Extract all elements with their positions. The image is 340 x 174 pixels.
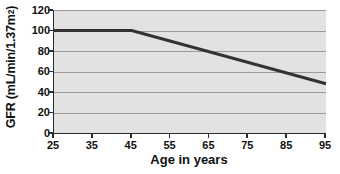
- x-axis-tick-label: 95: [310, 139, 340, 151]
- x-axis-tick-mark: [208, 133, 210, 138]
- y-axis-tick-label: 0: [22, 128, 50, 139]
- x-axis-tick-label: 25: [38, 139, 68, 151]
- x-axis-tick-mark: [169, 133, 171, 138]
- y-axis-tick-label: 100: [22, 25, 50, 36]
- y-axis-tick-label: 80: [22, 46, 50, 57]
- x-axis-tick-label: 85: [271, 139, 301, 151]
- gfr-decline-line: [54, 31, 326, 84]
- x-axis-tick-label: 65: [193, 139, 223, 151]
- y-axis-tick-label: 120: [22, 5, 50, 16]
- x-axis-label: Age in years: [53, 152, 325, 167]
- x-axis-tick-mark: [52, 133, 54, 138]
- gfr-vs-age-chart: GFR (mL/min/1.37m2) 020406080100120 2535…: [0, 0, 340, 174]
- y-axis-label-text: GFR (mL/min/1.37m: [4, 14, 18, 128]
- x-axis-tick-label: 45: [116, 139, 146, 151]
- y-axis-tick-label: 40: [22, 87, 50, 98]
- x-axis-tick-mark: [324, 133, 326, 138]
- y-axis-tick-label: 20: [22, 107, 50, 118]
- y-axis-label-close: ): [4, 6, 18, 10]
- x-axis-tick-mark: [246, 133, 248, 138]
- data-series-layer: [54, 10, 326, 133]
- y-axis-tick-label: 60: [22, 66, 50, 77]
- x-axis-tick-label: 35: [77, 139, 107, 151]
- x-axis-tick-label: 75: [232, 139, 262, 151]
- x-axis-tick-mark: [91, 133, 93, 138]
- x-axis-tick-mark: [285, 133, 287, 138]
- y-axis-label: GFR (mL/min/1.37m2): [0, 0, 22, 134]
- plot-area: [53, 10, 326, 134]
- x-axis-tick-mark: [130, 133, 132, 138]
- x-axis-tick-label: 55: [155, 139, 185, 151]
- x-axis: 2535455565758595: [53, 133, 325, 134]
